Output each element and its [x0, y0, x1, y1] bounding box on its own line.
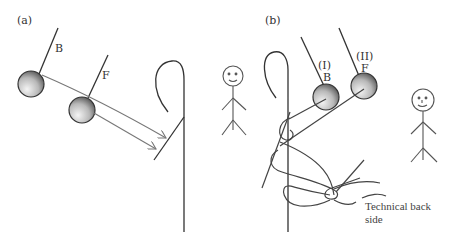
diagonal-strand [262, 112, 290, 188]
needle-ii-label: (II) [356, 51, 373, 62]
needle-ii-sublabel: F [361, 63, 369, 74]
panel-b-label: (b) [265, 15, 281, 26]
stick-figure-right-icon [411, 89, 437, 162]
bottom-loop [284, 186, 330, 206]
yarn-loop-b [264, 52, 288, 232]
yarn-strand [154, 117, 184, 160]
stick-figure-left-icon [222, 66, 246, 135]
needle-b-head-icon [18, 71, 44, 97]
needle-f-label: F [102, 70, 110, 81]
panel-a-label: (a) [17, 15, 32, 26]
needle-i-label: (I) [318, 60, 331, 71]
panel-a [18, 28, 184, 232]
needle-b-label: B [55, 43, 63, 54]
technical-back-side-caption-line1: Technical back [365, 200, 431, 213]
needle-i-sublabel: B [323, 72, 331, 83]
needle-f-head-icon [69, 97, 95, 123]
upper-right-strand [336, 160, 364, 192]
arrow-b-icon [42, 75, 166, 138]
yarn-loop [156, 61, 184, 232]
technical-back-side-caption-line2: side [365, 213, 383, 226]
arrow-f-icon [94, 113, 156, 149]
needle-i-head-icon [313, 84, 339, 110]
